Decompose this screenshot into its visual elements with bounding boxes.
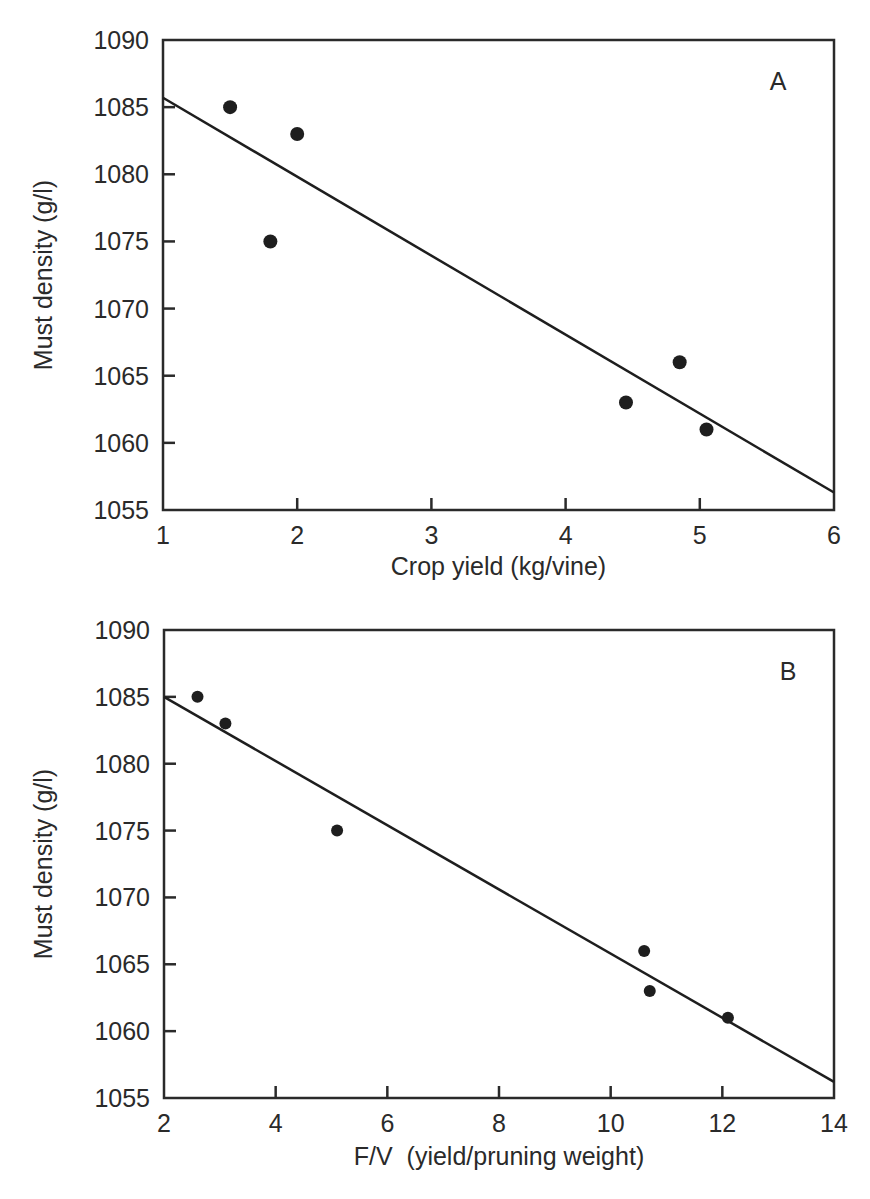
data-point xyxy=(619,396,633,410)
x-tick-label: 6 xyxy=(380,1109,394,1137)
y-axis-title: Must density (g/l) xyxy=(29,769,57,959)
chart-panel-a: 10551060106510701075108010851090123456Cr… xyxy=(29,26,841,580)
y-tick-label: 1090 xyxy=(94,616,150,644)
y-tick-label: 1090 xyxy=(93,26,149,54)
y-axis-title: Must density (g/l) xyxy=(29,180,57,370)
y-tick-label: 1060 xyxy=(94,1017,150,1045)
x-tick-label: 4 xyxy=(559,521,573,549)
x-tick-label: 8 xyxy=(492,1109,506,1137)
panel-label: B xyxy=(780,657,797,685)
y-tick-label: 1080 xyxy=(93,160,149,188)
y-tick-label: 1070 xyxy=(94,883,150,911)
y-tick-label: 1085 xyxy=(94,683,150,711)
y-tick-label: 1055 xyxy=(93,496,149,524)
regression-line xyxy=(163,98,834,493)
x-tick-label: 2 xyxy=(157,1109,171,1137)
x-tick-label: 6 xyxy=(827,521,841,549)
x-tick-label: 4 xyxy=(269,1109,283,1137)
x-tick-label: 5 xyxy=(693,521,707,549)
y-tick-label: 1075 xyxy=(94,817,150,845)
x-tick-label: 2 xyxy=(290,521,304,549)
y-tick-label: 1070 xyxy=(93,295,149,323)
y-tick-label: 1085 xyxy=(93,93,149,121)
x-tick-label: 12 xyxy=(708,1109,736,1137)
x-axis-title: F/V (yield/pruning weight) xyxy=(354,1142,644,1170)
data-point xyxy=(219,718,231,730)
data-point xyxy=(223,100,237,114)
x-tick-label: 1 xyxy=(156,521,170,549)
plot-frame xyxy=(163,40,834,510)
figure: 10551060106510701075108010851090123456Cr… xyxy=(0,0,870,1199)
data-point xyxy=(673,355,687,369)
y-tick-label: 1060 xyxy=(93,429,149,457)
data-point xyxy=(263,234,277,248)
y-tick-label: 1055 xyxy=(94,1084,150,1112)
x-tick-label: 10 xyxy=(597,1109,625,1137)
data-point xyxy=(290,127,304,141)
panel-label: A xyxy=(770,67,787,95)
y-tick-label: 1065 xyxy=(93,362,149,390)
data-point xyxy=(700,422,714,436)
x-tick-label: 3 xyxy=(424,521,438,549)
regression-line xyxy=(164,697,834,1082)
y-tick-label: 1080 xyxy=(94,750,150,778)
data-point xyxy=(638,945,650,957)
data-point xyxy=(722,1012,734,1024)
y-tick-label: 1065 xyxy=(94,950,150,978)
data-point xyxy=(192,691,204,703)
x-axis-title: Crop yield (kg/vine) xyxy=(391,552,606,580)
x-tick-label: 14 xyxy=(820,1109,848,1137)
plot-frame xyxy=(164,630,834,1098)
y-tick-label: 1075 xyxy=(93,227,149,255)
chart-panel-b: 1055106010651070107510801085109024681012… xyxy=(29,616,848,1170)
data-point xyxy=(644,985,656,997)
data-point xyxy=(331,825,343,837)
